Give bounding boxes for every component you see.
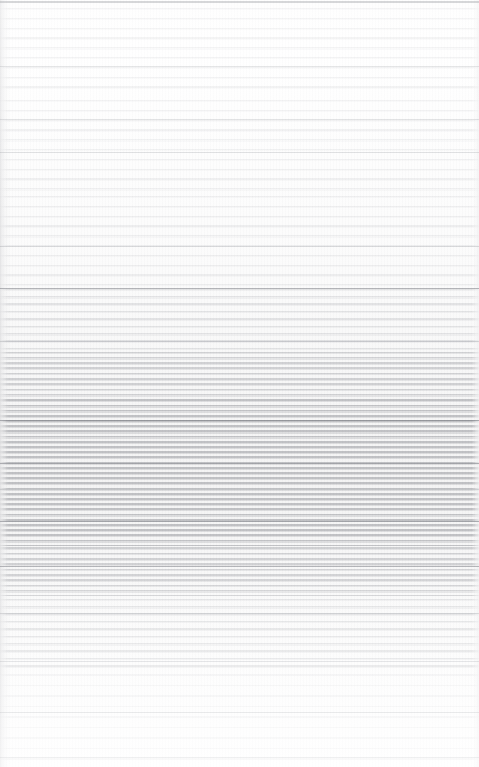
text-band-foot-faint-text (0, 670, 479, 767)
stroke-rule-lower-b (0, 613, 479, 614)
text-band-dense-text-lower (0, 546, 479, 596)
text-band-upper-sparse-text (0, 4, 479, 96)
text-line-texture (0, 596, 479, 670)
text-line-texture (0, 546, 479, 596)
text-band-mid-upper-text (0, 192, 479, 286)
text-line-texture (0, 670, 479, 767)
text-line-texture (0, 350, 479, 398)
stroke-rule-upper-a (0, 66, 479, 67)
stroke-rule-core-a (0, 420, 479, 421)
right-edge-shadow (473, 0, 479, 767)
stroke-rule-core-b (0, 463, 479, 464)
stroke-rule-mid-c (0, 341, 479, 342)
stroke-rule-lower-a (0, 566, 479, 567)
stroke-rule-foot-a (0, 712, 479, 713)
text-line-texture (0, 96, 479, 192)
left-gutter-shadow (0, 0, 10, 767)
stroke-rule-core-d (0, 521, 479, 522)
top-edge-rule (0, 1, 479, 3)
stroke-rule-lower-c (0, 661, 479, 662)
stroke-rule-core-c (0, 489, 479, 490)
text-band-dense-text-upper (0, 350, 479, 398)
text-line-texture (0, 192, 479, 286)
scanned-document-page (0, 0, 479, 767)
stroke-rule-mid-a (0, 246, 479, 247)
stroke-rule-foot-b (0, 757, 479, 758)
text-band-upper-mid-sparse-text (0, 96, 479, 192)
stroke-rule-upper-c (0, 152, 479, 153)
stroke-rule-upper-b (0, 119, 479, 120)
text-line-texture (0, 4, 479, 96)
text-band-lower-medium-text (0, 596, 479, 670)
stroke-rule-mid-b (0, 288, 479, 289)
